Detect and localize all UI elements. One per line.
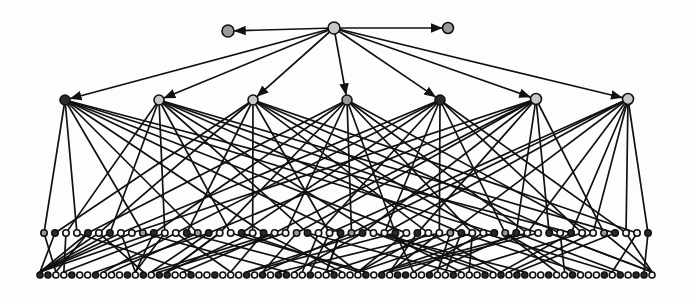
level2-node-20 [260, 230, 266, 236]
edge-level1-6-to-level2-44 [529, 99, 628, 230]
level2-node-44 [524, 230, 530, 236]
level3-node-18 [180, 272, 186, 278]
level3-node-59 [506, 272, 512, 278]
level3-node-64 [546, 272, 552, 278]
level3-node-54 [466, 272, 472, 278]
level2-node-19 [249, 230, 255, 236]
level3-node-16 [164, 272, 170, 278]
side-node-1 [443, 23, 454, 34]
level2-node-32 [392, 230, 398, 236]
level2-node-15 [206, 230, 212, 236]
level2-node-26 [326, 230, 332, 236]
edge-level1-0-to-level2-3 [65, 100, 77, 230]
level1-node-0 [60, 95, 70, 105]
edge-level1-6-to-level2-50 [594, 99, 628, 230]
level3-node-35 [315, 272, 321, 278]
level2-node-51 [601, 230, 607, 236]
level3-node-70 [593, 272, 599, 278]
level3-node-74 [625, 272, 631, 278]
edge-level1-1-to-level2-52 [159, 100, 612, 232]
level3-node-65 [554, 272, 560, 278]
level2-node-29 [359, 230, 365, 236]
level3-node-33 [299, 272, 305, 278]
level2-node-7 [118, 230, 124, 236]
level2-node-24 [304, 230, 310, 236]
level3-node-53 [458, 272, 464, 278]
level3-node-55 [474, 272, 480, 278]
level2-node-38 [458, 230, 464, 236]
level3-node-15 [156, 272, 162, 278]
level2-node-1 [52, 230, 58, 236]
level3-node-38 [339, 272, 345, 278]
level3-node-72 [609, 272, 615, 278]
level3-node-51 [442, 272, 448, 278]
level1-node-6 [623, 94, 634, 105]
level2-node-28 [348, 230, 354, 236]
level3-node-20 [196, 272, 202, 278]
level2-node-50 [590, 230, 596, 236]
level3-node-68 [577, 272, 583, 278]
level2-node-13 [184, 230, 190, 236]
level3-node-40 [355, 272, 361, 278]
level3-node-52 [450, 272, 456, 278]
level2-node-25 [315, 230, 321, 236]
level2-node-23 [293, 230, 299, 236]
level2-node-18 [238, 230, 244, 236]
level3-node-60 [514, 272, 520, 278]
level2-node-48 [568, 230, 574, 236]
hierarchy-graph [0, 0, 689, 301]
edge-level1-1-to-level2-6 [111, 100, 159, 230]
level2-node-37 [447, 230, 453, 236]
level3-node-1 [45, 272, 51, 278]
edge-level1-3-to-level2-10 [156, 100, 347, 231]
root-node [328, 22, 340, 34]
level3-node-63 [538, 272, 544, 278]
level3-node-42 [371, 272, 377, 278]
level3-node-75 [633, 272, 639, 278]
level2-node-45 [535, 230, 541, 236]
level3-node-26 [244, 272, 250, 278]
level3-node-58 [498, 272, 504, 278]
level3-node-3 [61, 272, 67, 278]
level3-node-10 [116, 272, 122, 278]
level2-node-6 [107, 230, 113, 236]
level2-node-33 [403, 230, 409, 236]
level3-node-49 [426, 272, 432, 278]
edge-level1-6-to-level2-53 [626, 99, 628, 230]
level1-node-4 [435, 95, 445, 105]
level3-node-46 [403, 272, 409, 278]
level3-node-19 [188, 272, 194, 278]
level3-node-23 [220, 272, 226, 278]
edge-level1-6-to-level2-55 [628, 99, 648, 230]
level3-node-36 [323, 272, 329, 278]
edge-root-to-side-0 [235, 28, 334, 31]
level2-node-36 [436, 230, 442, 236]
level2-node-3 [74, 230, 80, 236]
level3-node-62 [530, 272, 536, 278]
level2-node-9 [140, 230, 146, 236]
level2-node-53 [623, 230, 629, 236]
level2-node-55 [645, 230, 651, 236]
edge-root-to-level1-6 [334, 28, 622, 97]
network-diagram [0, 0, 689, 301]
edge-root-to-level1-5 [334, 28, 530, 97]
level3-node-30 [275, 272, 281, 278]
edge-level1-0-to-level2-0 [44, 100, 65, 230]
level3-node-44 [387, 272, 393, 278]
level3-node-77 [649, 272, 655, 278]
level2-node-46 [546, 230, 552, 236]
edge-level1-6-to-level2-48 [572, 99, 628, 230]
level2-node-11 [162, 230, 168, 236]
level3-node-76 [641, 272, 647, 278]
level3-node-50 [434, 272, 440, 278]
level3-node-28 [260, 272, 266, 278]
level3-node-4 [69, 272, 75, 278]
level3-node-5 [77, 272, 83, 278]
edge-level1-0-to-level2-33 [65, 100, 403, 232]
level3-node-37 [331, 272, 337, 278]
level3-node-21 [204, 272, 210, 278]
edge-level1-4-to-level2-36 [439, 100, 440, 230]
level3-node-67 [570, 272, 576, 278]
level1-node-3 [342, 95, 352, 105]
edge-level1-3-to-level2-32 [347, 100, 394, 230]
